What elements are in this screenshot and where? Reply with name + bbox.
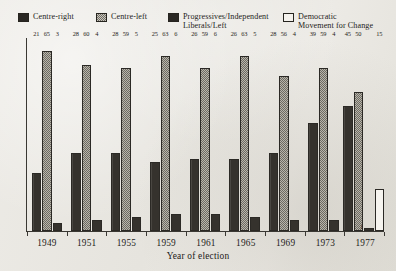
bar-rect[interactable] bbox=[375, 189, 385, 231]
bar-rect[interactable] bbox=[329, 220, 339, 231]
bar-centre-right[interactable]: 45 bbox=[343, 38, 353, 231]
bar-centre-left[interactable]: 50 bbox=[354, 38, 364, 231]
bar-progressives[interactable]: 5 bbox=[132, 38, 142, 231]
legend-item-progressives: Progressives/Independent Liberals/Left bbox=[168, 12, 283, 31]
bar-group-1969: 28564 bbox=[264, 38, 304, 231]
bar-group-1973: 39594 bbox=[304, 38, 344, 231]
bar-rect[interactable] bbox=[121, 68, 131, 232]
bar-centre-left[interactable]: 59 bbox=[200, 38, 210, 231]
x-tick bbox=[67, 232, 107, 236]
bar-rect[interactable] bbox=[111, 153, 121, 231]
bar-centre-right[interactable]: 28 bbox=[71, 38, 81, 231]
x-tick bbox=[344, 232, 384, 236]
legend-label: Centre-right bbox=[33, 12, 74, 21]
bar-rect[interactable] bbox=[308, 123, 318, 231]
bar-centre-left[interactable]: 63 bbox=[240, 38, 250, 231]
legend-label: Democratic Movement for Change bbox=[298, 12, 373, 31]
bar-centre-left[interactable]: 59 bbox=[319, 38, 329, 231]
plot-area: 2165328604285952563626596266352856439594… bbox=[26, 38, 384, 232]
bar-rect[interactable] bbox=[364, 228, 374, 231]
bar-progressives[interactable]: 5 bbox=[250, 38, 260, 231]
bar-value-label: 4 bbox=[293, 30, 296, 37]
x-axis-ticks bbox=[27, 232, 384, 236]
bar-rect[interactable] bbox=[132, 217, 142, 231]
bar-centre-left[interactable]: 63 bbox=[161, 38, 171, 231]
bar-value-label: 4 bbox=[332, 30, 335, 37]
bar-value-label: 15 bbox=[376, 30, 382, 37]
bar-progressives[interactable]: 3 bbox=[53, 38, 63, 231]
bar-rect[interactable] bbox=[42, 51, 52, 231]
bar-value-label: 1 bbox=[360, 223, 363, 230]
bar-rect[interactable] bbox=[319, 68, 329, 232]
bar-rect[interactable] bbox=[290, 220, 300, 231]
bar-rect[interactable] bbox=[150, 162, 160, 231]
bar-progressives[interactable]: 1 bbox=[364, 38, 374, 231]
chart-legend: Centre-right Centre-left Progressives/In… bbox=[18, 12, 392, 31]
x-tick-label-1951: 1951 bbox=[67, 238, 107, 249]
bar-value-label: 26 bbox=[191, 30, 197, 37]
bar-centre-left[interactable]: 65 bbox=[42, 38, 52, 231]
white-outline-swatch-icon bbox=[283, 13, 294, 22]
bar-rect[interactable] bbox=[32, 173, 42, 231]
bar-rect[interactable] bbox=[343, 106, 353, 231]
bar-democratic-movement[interactable]: 15 bbox=[375, 38, 385, 231]
bar-progressives[interactable]: 4 bbox=[92, 38, 102, 231]
x-tick-label-1961: 1961 bbox=[186, 238, 226, 249]
bar-rect[interactable] bbox=[229, 159, 239, 231]
bar-group-1965: 26635 bbox=[225, 38, 265, 231]
x-tick bbox=[265, 232, 305, 236]
bar-group-1959: 25636 bbox=[146, 38, 186, 231]
x-tick bbox=[186, 232, 226, 236]
bar-value-label: 65 bbox=[44, 30, 50, 37]
bar-rect[interactable] bbox=[92, 220, 102, 231]
bar-centre-right[interactable]: 28 bbox=[269, 38, 279, 231]
x-tick-label-1977: 1977 bbox=[345, 238, 385, 249]
bar-progressives[interactable]: 6 bbox=[171, 38, 181, 231]
x-tick bbox=[27, 232, 67, 236]
bar-value-label: 60 bbox=[83, 30, 89, 37]
bar-rect[interactable] bbox=[171, 214, 181, 231]
bar-rect[interactable] bbox=[354, 92, 364, 231]
bar-rect[interactable] bbox=[82, 65, 92, 231]
bar-centre-right[interactable]: 25 bbox=[150, 38, 160, 231]
bar-progressives[interactable]: 6 bbox=[211, 38, 221, 231]
bar-rect[interactable] bbox=[250, 217, 260, 231]
bar-value-label: 59 bbox=[123, 30, 129, 37]
legend-label: Progressives/Independent Liberals/Left bbox=[183, 12, 269, 31]
x-tick bbox=[305, 232, 345, 236]
bar-rect[interactable] bbox=[190, 159, 200, 231]
bar-centre-left[interactable]: 59 bbox=[121, 38, 131, 231]
bar-value-label: 50 bbox=[355, 30, 361, 37]
x-tick bbox=[106, 232, 146, 236]
bar-centre-right[interactable]: 26 bbox=[190, 38, 200, 231]
bar-rect[interactable] bbox=[200, 68, 210, 232]
legend-item-democratic-movement: Democratic Movement for Change bbox=[283, 12, 391, 31]
bar-rect[interactable] bbox=[269, 153, 279, 231]
bar-rect[interactable] bbox=[240, 56, 250, 231]
bar-rect[interactable] bbox=[161, 56, 171, 231]
bar-rect[interactable] bbox=[211, 214, 221, 231]
bar-progressives[interactable]: 4 bbox=[329, 38, 339, 231]
bar-centre-right[interactable]: 26 bbox=[229, 38, 239, 231]
bar-value-label: 25 bbox=[152, 30, 158, 37]
bar-rect[interactable] bbox=[53, 223, 63, 231]
bar-group-1951: 28604 bbox=[67, 38, 107, 231]
bar-progressives[interactable]: 4 bbox=[290, 38, 300, 231]
bar-value-label: 56 bbox=[281, 30, 287, 37]
bar-value-label: 63 bbox=[162, 30, 168, 37]
x-tick-label-1973: 1973 bbox=[305, 238, 345, 249]
bar-centre-left[interactable]: 56 bbox=[279, 38, 289, 231]
bar-rect[interactable] bbox=[279, 76, 289, 231]
x-tick-label-1959: 1959 bbox=[146, 238, 186, 249]
bar-value-label: 5 bbox=[135, 30, 138, 37]
bar-centre-left[interactable]: 60 bbox=[82, 38, 92, 231]
bar-group-1977: 4550115 bbox=[343, 38, 384, 231]
bar-value-label: 26 bbox=[231, 30, 237, 37]
bar-centre-right[interactable]: 39 bbox=[308, 38, 318, 231]
legend-item-centre-right: Centre-right bbox=[18, 12, 96, 22]
bar-value-label: 28 bbox=[112, 30, 118, 37]
bar-centre-right[interactable]: 28 bbox=[111, 38, 121, 231]
bar-rect[interactable] bbox=[71, 153, 81, 231]
chart-figure: Centre-right Centre-left Progressives/In… bbox=[0, 0, 396, 271]
bar-centre-right[interactable]: 21 bbox=[32, 38, 42, 231]
